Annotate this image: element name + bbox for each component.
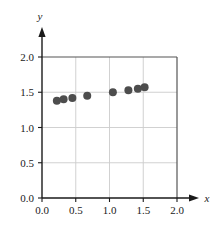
data-point <box>141 83 149 91</box>
plot-canvas: 0.00.51.01.52.0 0.00.51.01.52.0 x y <box>0 0 224 229</box>
x-tick-label: 1.5 <box>136 204 150 216</box>
data-point <box>53 97 61 105</box>
data-point <box>134 85 142 93</box>
x-tick-label: 0.5 <box>69 204 83 216</box>
data-point <box>83 92 91 100</box>
y-tick-label: 1.5 <box>20 86 34 98</box>
data-point <box>60 95 68 103</box>
y-tick-label: 0.5 <box>20 157 34 169</box>
y-tick-label: 0.0 <box>20 192 34 204</box>
data-point <box>68 94 76 102</box>
data-point <box>109 88 117 96</box>
data-point <box>124 86 132 94</box>
y-axis-label: y <box>37 10 43 22</box>
y-tick-label: 1.0 <box>20 122 34 134</box>
y-tick-label: 2.0 <box>20 51 34 63</box>
scatter-plot-figure: 0.00.51.01.52.0 0.00.51.01.52.0 x y <box>0 0 224 229</box>
x-tick-label: 0.0 <box>35 204 49 216</box>
x-tick-label: 1.0 <box>103 204 117 216</box>
x-axis-label: x <box>204 192 210 204</box>
x-tick-label: 2.0 <box>170 204 184 216</box>
